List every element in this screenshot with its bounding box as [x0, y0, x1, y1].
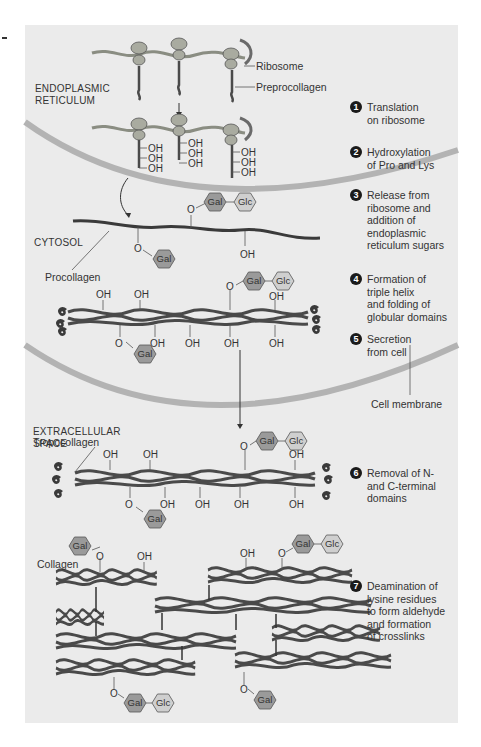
svg-text:OH: OH [240, 548, 255, 559]
svg-text:OH: OH [269, 291, 284, 302]
svg-text:Glc: Glc [289, 435, 304, 446]
callout-cell-membrane: Cell membrane [371, 398, 442, 410]
step-number-badge: 2 [350, 146, 362, 158]
svg-text:O: O [278, 548, 286, 559]
svg-text:Gal: Gal [208, 196, 223, 207]
svg-text:Gal: Gal [148, 513, 163, 524]
region-label-er: ENDOPLASMIC RETICULUM [35, 83, 110, 107]
svg-text:OH: OH [195, 499, 210, 510]
svg-text:O: O [134, 243, 142, 254]
callout-collagen: Collagen [37, 558, 78, 570]
svg-text:Gal: Gal [260, 435, 275, 446]
svg-text:OH: OH [103, 449, 118, 460]
svg-text:OH: OH [134, 289, 149, 300]
callout-tropocollagen: Tropocollagen [33, 436, 99, 448]
step-number-badge: 3 [350, 189, 362, 201]
step-5: 5 Secretion from cell [350, 333, 411, 358]
svg-text:O: O [187, 204, 195, 215]
svg-text:OH: OH [160, 499, 175, 510]
svg-text:Gal: Gal [73, 540, 88, 551]
region-label-er-line1: ENDOPLASMIC [35, 83, 110, 95]
step-number-badge: 6 [350, 467, 362, 479]
svg-text:OH: OH [148, 163, 163, 174]
svg-text:O: O [240, 441, 248, 452]
callout-ribosome: Ribosome [256, 60, 303, 72]
svg-text:Gal: Gal [128, 697, 143, 708]
step-2: 2 Hydroxylation of Pro and Lys [350, 146, 434, 171]
svg-text:OH: OH [240, 249, 255, 260]
svg-text:OH: OH [96, 289, 111, 300]
step-7: 7 Deamination of lysine residues to form… [350, 580, 445, 643]
svg-text:OH: OH [289, 499, 304, 510]
svg-text:Glc: Glc [325, 538, 340, 549]
svg-text:OH: OH [185, 338, 200, 349]
region-label-er-line2: RETICULUM [35, 95, 110, 107]
step-description: Deamination of lysine residues to form a… [367, 580, 445, 643]
svg-text:OH: OH [137, 551, 152, 562]
region-label-cytosol: CYTOSOL [34, 237, 83, 249]
step-3: 3 Release from ribosome and addition of … [350, 189, 444, 252]
svg-text:Gal: Gal [247, 275, 262, 286]
step-description: Hydroxylation of Pro and Lys [367, 146, 434, 171]
svg-text:Gal: Gal [296, 538, 311, 549]
step-description: Formation of triple helix and folding of… [367, 273, 447, 323]
callout-preprocollagen: Preprocollagen [256, 81, 327, 93]
svg-text:O: O [125, 499, 133, 510]
svg-text:Glc: Glc [276, 275, 291, 286]
step-number-badge: 5 [350, 333, 362, 345]
step-number-badge: 7 [350, 580, 362, 592]
callout-procollagen: Procollagen [45, 271, 100, 283]
svg-text:Glc: Glc [238, 196, 253, 207]
svg-text:OH: OH [241, 167, 256, 178]
step-6: 6 Removal of N- and C-terminal domains [350, 467, 436, 505]
step-number-badge: 4 [350, 273, 362, 285]
svg-text:OH: OH [143, 449, 158, 460]
step-description: Secretion from cell [367, 333, 411, 358]
svg-text:Gal: Gal [157, 253, 172, 264]
step-description: Translation on ribosome [367, 101, 425, 126]
svg-text:Glc: Glc [156, 697, 171, 708]
svg-text:O: O [226, 281, 234, 292]
svg-text:O: O [96, 551, 104, 562]
step-description: Release from ribosome and addition of en… [367, 189, 444, 252]
svg-text:O: O [110, 688, 118, 699]
step-1: 1 Translation on ribosome [350, 101, 425, 126]
collagen-fibrils [56, 568, 391, 675]
svg-text:OH: OH [234, 499, 249, 510]
svg-text:O: O [240, 684, 248, 695]
svg-text:OH: OH [224, 338, 239, 349]
svg-text:O: O [115, 338, 123, 349]
svg-text:OH: OH [188, 158, 203, 169]
svg-text:Gal: Gal [138, 348, 153, 359]
step-number-badge: 1 [350, 101, 362, 113]
svg-text:OH: OH [289, 449, 304, 460]
step-4: 4 Formation of triple helix and folding … [350, 273, 447, 323]
step-description: Removal of N- and C-terminal domains [367, 467, 436, 505]
svg-text:Gal: Gal [258, 694, 273, 705]
svg-text:OH: OH [269, 338, 284, 349]
